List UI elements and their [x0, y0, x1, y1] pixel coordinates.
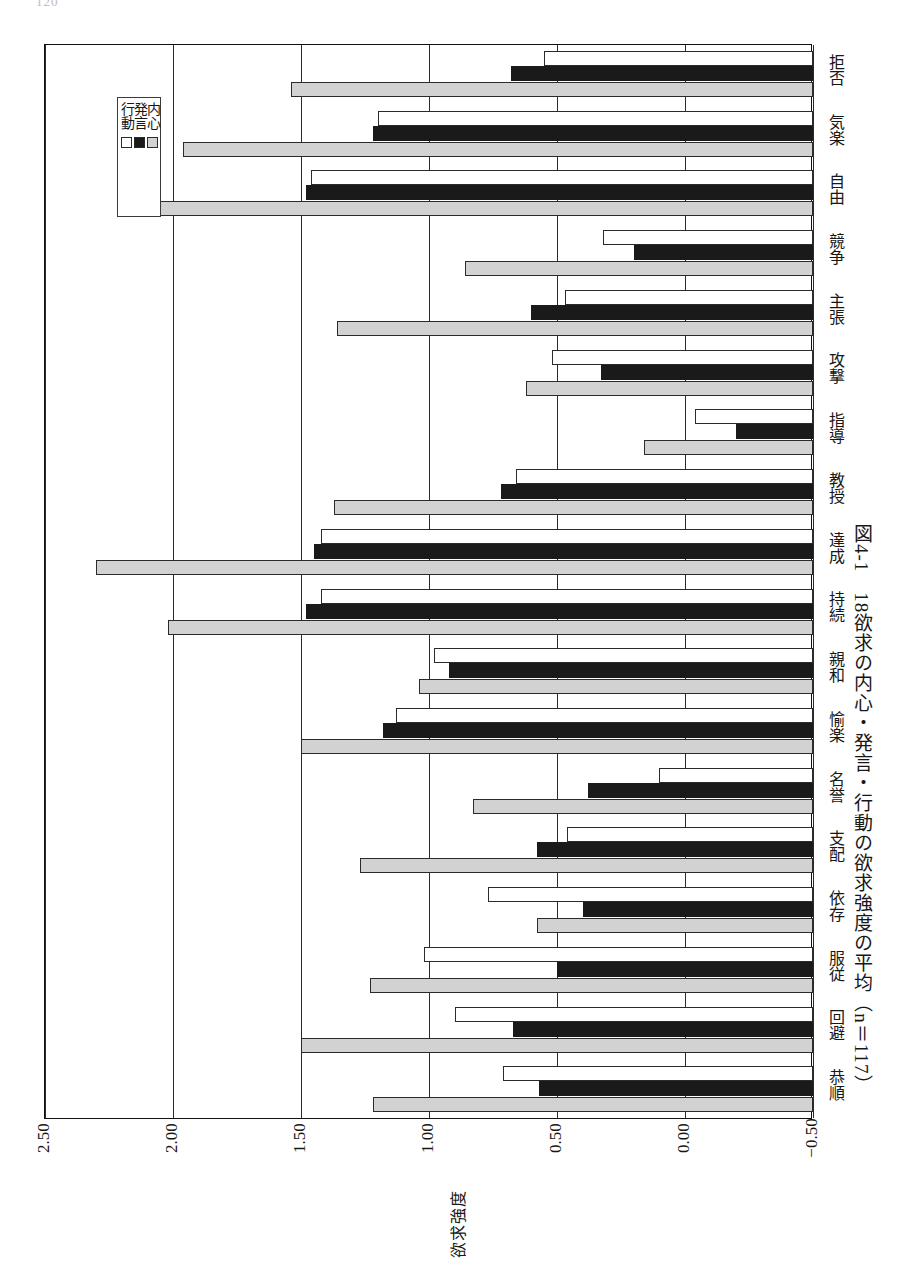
- bar-action: [455, 1007, 813, 1022]
- bar-speech: [588, 783, 813, 798]
- bar-inner: [373, 1097, 813, 1112]
- bar-group: [45, 941, 811, 1001]
- category-label-3: 競争: [818, 233, 844, 265]
- bar-speech: [306, 604, 813, 619]
- category-label-15: 服従: [818, 950, 844, 982]
- bar-speech: [539, 1081, 813, 1096]
- bar-speech: [513, 1022, 813, 1037]
- bar-group: [45, 1001, 811, 1061]
- category-label-16: 回避: [818, 1009, 844, 1041]
- bar-action: [321, 529, 813, 544]
- bar-group: [45, 224, 811, 284]
- figure-caption: 図4-1 18欲求の内心・発言・行動の欲求強度の平均（n＝117）: [848, 524, 875, 1095]
- bar-speech: [306, 185, 813, 200]
- bar-inner: [160, 201, 813, 216]
- legend-swatch-speech: [134, 137, 145, 148]
- bar-speech: [501, 484, 813, 499]
- value-axis-title: 欲求強度: [445, 1149, 469, 1285]
- bar-speech: [557, 962, 813, 977]
- bar-action: [565, 290, 813, 305]
- bar-action: [567, 827, 813, 842]
- tick-label-2.50: 2.50: [34, 1106, 54, 1170]
- bar-action: [378, 111, 813, 126]
- bar-action: [311, 170, 813, 185]
- category-label-7: 教授: [818, 472, 844, 504]
- bar-speech: [373, 126, 813, 141]
- bar-group: [45, 642, 811, 702]
- bar-group: [45, 881, 811, 941]
- bar-action: [488, 887, 813, 902]
- bar-inner: [360, 858, 813, 873]
- bar-speech: [537, 842, 813, 857]
- bar-speech: [634, 245, 813, 260]
- bar-group: [45, 762, 811, 822]
- bar-inner: [465, 261, 813, 276]
- bar-group: [45, 821, 811, 881]
- tick-label-−0.50: −0.50: [802, 1106, 822, 1170]
- bar-action: [321, 589, 813, 604]
- category-label-9: 持続: [818, 591, 844, 623]
- legend-swatch-inner: [147, 137, 158, 148]
- bar-inner: [183, 142, 813, 157]
- bar-inner: [96, 560, 813, 575]
- legend-label-inner: 内心: [145, 102, 160, 130]
- bar-group: [45, 284, 811, 344]
- category-label-13: 支配: [818, 830, 844, 862]
- category-label-0: 拒否: [818, 54, 844, 86]
- bar-action: [659, 768, 813, 783]
- bar-inner: [301, 1038, 813, 1053]
- bar-group: [45, 702, 811, 762]
- bar-action: [544, 51, 813, 66]
- category-label-1: 気楽: [818, 114, 844, 146]
- bar-action: [396, 708, 813, 723]
- category-label-4: 主張: [818, 293, 844, 325]
- bar-speech: [601, 365, 813, 380]
- bar-inner: [370, 978, 813, 993]
- bar-action: [603, 230, 813, 245]
- bar-group: [45, 344, 811, 404]
- bar-inner: [291, 82, 813, 97]
- bar-speech: [383, 723, 813, 738]
- tick-label-0.50: 0.50: [546, 1106, 566, 1170]
- bar-action: [424, 947, 813, 962]
- chart-legend: 内心 発言 行動: [117, 97, 161, 217]
- bar-speech: [736, 424, 813, 439]
- bar-action: [434, 648, 813, 663]
- bar-inner: [537, 918, 813, 933]
- bar-speech: [583, 902, 813, 917]
- category-label-2: 自由: [818, 173, 844, 205]
- bar-action: [516, 469, 813, 484]
- gridline-−0.50: [813, 45, 814, 1118]
- tick-label-2.00: 2.00: [162, 1106, 182, 1170]
- bar-action: [552, 350, 813, 365]
- bar-inner: [419, 679, 813, 694]
- bar-inner: [337, 321, 813, 336]
- bar-group: [45, 45, 811, 105]
- bar-inner: [168, 620, 813, 635]
- category-label-10: 親和: [818, 651, 844, 683]
- category-label-8: 達成: [818, 532, 844, 564]
- bar-speech: [314, 544, 813, 559]
- category-label-6: 指導: [818, 412, 844, 444]
- bar-inner: [334, 500, 813, 515]
- bar-group: [45, 463, 811, 523]
- page-number: 120: [36, 0, 59, 10]
- category-label-14: 依存: [818, 890, 844, 922]
- bar-inner: [301, 739, 813, 754]
- bar-group: [45, 403, 811, 463]
- tick-label-1.50: 1.50: [290, 1106, 310, 1170]
- category-label-17: 恭順: [818, 1069, 844, 1101]
- bar-group: [45, 523, 811, 583]
- category-label-11: 愉楽: [818, 711, 844, 743]
- legend-swatch-action: [121, 137, 132, 148]
- bar-inner: [526, 381, 813, 396]
- category-label-5: 攻撃: [818, 352, 844, 384]
- bar-speech: [449, 663, 813, 678]
- plot-frame: 内心 発言 行動: [44, 44, 812, 1119]
- bar-speech: [511, 66, 813, 81]
- legend-item-inner: 内心: [146, 102, 159, 212]
- tick-label-1.00: 1.00: [418, 1106, 438, 1170]
- bar-speech: [531, 305, 813, 320]
- bar-action: [695, 409, 813, 424]
- bar-group: [45, 583, 811, 643]
